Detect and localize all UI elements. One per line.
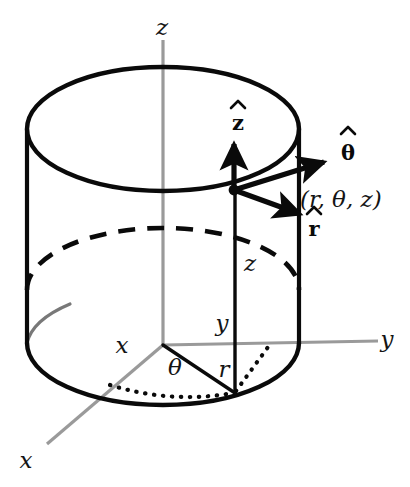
radius-r-label: r [219,356,232,382]
theta-arc-dotted [110,385,233,397]
theta-hat-label-group: θ [341,127,355,165]
r-hat-label: r [308,216,320,241]
y-axis-label: y [380,326,395,352]
theta-hat-label: θ [341,140,355,165]
angle-theta-label: θ [168,354,182,380]
coordinate-axes-group [47,40,378,444]
point-marker [229,185,240,196]
point-coordinates-label: (r, θ, z) [300,186,382,212]
z-hat-label-group: z [231,101,245,135]
z-hat-accent-icon [231,101,245,108]
cylinder-bottom-rim-back [27,304,70,343]
z-axis-label: z [155,14,169,40]
y-axis-line [163,341,378,345]
theta-hat-accent-icon [341,127,355,134]
x-axis-label: x [20,447,33,473]
diagram-canvas: z y x z θ r (r, θ, z) z y x θ r [0,0,410,487]
base-plane-construction-group [110,190,271,397]
height-z-label: z [243,250,257,276]
z-hat-label: z [232,110,244,135]
distance-x-label: x [116,332,129,358]
r-hat-label-group: r [307,207,321,241]
cylindrical-coordinates-diagram: z y x z θ r (r, θ, z) z y x θ r [0,0,410,487]
r-hat-arrow [234,190,300,214]
distance-y-label: y [215,310,230,336]
